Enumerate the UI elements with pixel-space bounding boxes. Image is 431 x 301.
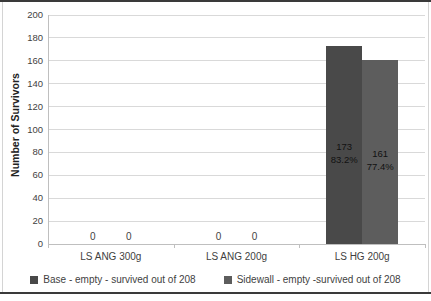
x-category-label: LS ANG 200g: [174, 251, 300, 262]
x-tick-mark: [48, 244, 49, 248]
bar-data-label: 161 77.4%: [367, 147, 394, 173]
y-gridline: [48, 15, 425, 16]
bar-chart: Number of Survivors 02040608010012014016…: [0, 0, 431, 301]
legend-swatch-icon: [30, 276, 38, 284]
y-tick-label: 200: [0, 10, 43, 20]
legend-item: Sidewall - empty -survived out of 208: [224, 274, 401, 286]
x-category-label: LS HG 200g: [299, 251, 425, 262]
y-tick-label: 180: [0, 33, 43, 43]
y-tick-label: 160: [0, 56, 43, 66]
legend: Base - empty - survived out of 208Sidewa…: [0, 272, 431, 288]
legend-swatch-icon: [224, 276, 232, 284]
legend-item: Base - empty - survived out of 208: [30, 274, 195, 286]
y-tick-label: 100: [0, 125, 43, 135]
x-tick-mark: [299, 244, 300, 248]
y-gridline: [48, 37, 425, 38]
y-axis-line: [48, 15, 49, 244]
y-tick-label: 80: [0, 147, 43, 157]
bar-data-label: 173 83.2%: [331, 140, 358, 166]
y-tick-label: 0: [0, 239, 43, 249]
y-tick-label: 40: [0, 193, 43, 203]
x-tick-mark: [174, 244, 175, 248]
zero-data-label: 0: [90, 231, 96, 242]
zero-data-label: 0: [126, 231, 132, 242]
y-tick-label: 140: [0, 79, 43, 89]
legend-label: Sidewall - empty -survived out of 208: [237, 274, 401, 286]
y-tick-label: 20: [0, 216, 43, 226]
zero-data-label: 0: [216, 231, 222, 242]
plot-area: 02040608010012014016018020000LS ANG 300g…: [0, 0, 431, 301]
zero-data-label: 0: [252, 231, 258, 242]
y-tick-label: 120: [0, 102, 43, 112]
legend-label: Base - empty - survived out of 208: [43, 274, 195, 286]
x-tick-mark: [425, 244, 426, 248]
x-category-label: LS ANG 300g: [48, 251, 174, 262]
y-tick-label: 60: [0, 170, 43, 180]
